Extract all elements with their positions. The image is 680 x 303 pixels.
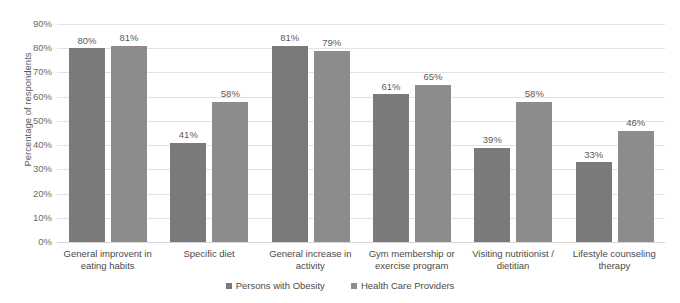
bar[interactable]: [314, 51, 350, 242]
y-axis-title: Percentage of respondents: [22, 5, 33, 215]
legend-swatch-icon: [351, 283, 357, 289]
y-axis-tick-70: 70%: [14, 67, 52, 77]
bar[interactable]: [212, 102, 248, 242]
x-axis-label-line: Visiting nutritionist /: [454, 248, 572, 260]
x-axis-label-line: exercise program: [353, 260, 471, 272]
bar-value-label: 33%: [570, 150, 618, 160]
bar-group: 80%81%: [61, 24, 162, 242]
x-axis-label-line: therapy: [555, 260, 673, 272]
x-axis-label-line: eating habits: [49, 260, 167, 272]
bar[interactable]: [69, 48, 105, 242]
chart-legend: Persons with ObesityHealth Care Provider…: [0, 281, 680, 291]
legend-swatch-icon: [226, 283, 232, 289]
x-axis-label-line: General increase in: [251, 248, 369, 260]
bar-group: 81%79%: [264, 24, 365, 242]
bar-value-label: 65%: [409, 72, 457, 82]
x-axis-label-line: General improvent in: [49, 248, 167, 260]
x-axis-label-line: Lifestyle counseling: [555, 248, 673, 260]
bar-value-label: 80%: [63, 36, 111, 46]
bar[interactable]: [618, 131, 654, 242]
bar-value-label: 58%: [206, 89, 254, 99]
x-axis-label: Lifestyle counselingtherapy: [555, 248, 673, 272]
axis-baseline: [57, 242, 665, 243]
legend-item[interactable]: Health Care Providers: [351, 281, 454, 291]
bar[interactable]: [516, 102, 552, 242]
bar-value-label: 46%: [612, 118, 660, 128]
bar[interactable]: [272, 46, 308, 242]
x-axis-label-line: Specific diet: [150, 248, 268, 260]
bar-group: 41%58%: [162, 24, 263, 242]
bar-value-label: 41%: [164, 130, 212, 140]
bar-group: 61%65%: [365, 24, 466, 242]
y-axis-tick-80: 80%: [14, 43, 52, 53]
y-axis-tick-40: 40%: [14, 140, 52, 150]
x-axis-label: Gym membership orexercise program: [353, 248, 471, 272]
plot-area: 80%81%41%58%81%79%61%65%39%58%33%46%: [57, 24, 665, 242]
bar-group: 33%46%: [568, 24, 669, 242]
x-axis-label: Visiting nutritionist /dietitian: [454, 248, 572, 272]
bar[interactable]: [415, 85, 451, 242]
bar[interactable]: [170, 143, 206, 242]
y-axis-tick-50: 50%: [14, 116, 52, 126]
bar-value-label: 39%: [468, 135, 516, 145]
legend-label: Persons with Obesity: [236, 281, 325, 291]
bar[interactable]: [576, 162, 612, 242]
bar-value-label: 81%: [266, 33, 314, 43]
x-axis-label-line: Gym membership or: [353, 248, 471, 260]
bar[interactable]: [111, 46, 147, 242]
chart-page: Percentage of respondents 90%80%70%60%50…: [0, 0, 680, 303]
bar-value-label: 58%: [510, 89, 558, 99]
y-axis-tick-20: 20%: [14, 189, 52, 199]
x-axis-label: General increase inactivity: [251, 248, 369, 272]
y-axis-tick-90: 90%: [14, 19, 52, 29]
y-axis-tick-30: 30%: [14, 164, 52, 174]
x-axis-label-line: activity: [251, 260, 369, 272]
y-axis-tick-60: 60%: [14, 92, 52, 102]
bar[interactable]: [373, 94, 409, 242]
legend-item[interactable]: Persons with Obesity: [226, 281, 325, 291]
x-axis-label: General improvent ineating habits: [49, 248, 167, 272]
bar-value-label: 61%: [367, 82, 415, 92]
bar[interactable]: [474, 148, 510, 242]
x-axis-label: Specific diet: [150, 248, 268, 260]
bar-value-label: 81%: [105, 33, 153, 43]
y-axis-tick-0: 0%: [14, 237, 52, 247]
bar-value-label: 79%: [308, 38, 356, 48]
legend-label: Health Care Providers: [361, 281, 454, 291]
x-axis-label-line: dietitian: [454, 260, 572, 272]
y-axis-tick-10: 10%: [14, 213, 52, 223]
bar-group: 39%58%: [466, 24, 567, 242]
